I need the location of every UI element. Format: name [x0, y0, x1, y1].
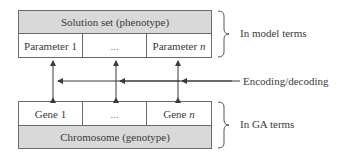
ga-terms-label: In GA terms	[240, 118, 294, 130]
model-terms-label: In model terms	[240, 27, 307, 39]
vertical-arrows	[53, 61, 178, 98]
brace-ga-icon	[218, 102, 229, 148]
brace-model-icon	[218, 11, 229, 57]
brace-icons	[218, 11, 229, 148]
encoding-decoding-label: Encoding/decoding	[243, 75, 329, 87]
